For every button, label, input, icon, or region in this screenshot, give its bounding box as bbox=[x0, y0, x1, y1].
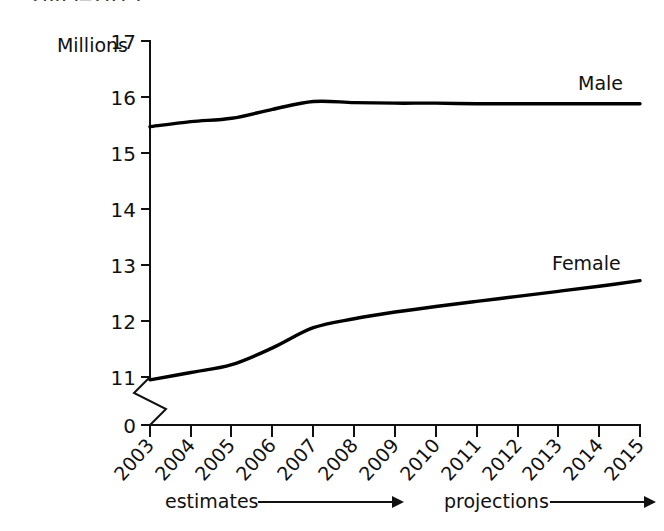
arrow-right-icon bbox=[392, 496, 404, 508]
x-tick-label-2014: 2014 bbox=[558, 434, 607, 485]
y-tick-label-13: 13 bbox=[111, 254, 136, 278]
y-tick-label-15: 15 bbox=[111, 142, 136, 166]
x-tick-label-2011: 2011 bbox=[436, 434, 485, 485]
x-tick-label-2005: 2005 bbox=[190, 434, 239, 485]
y-tick-label-12: 12 bbox=[111, 310, 136, 334]
line-chart: Millions 17 16 15 14 13 12 11 0 bbox=[0, 0, 664, 531]
y-tick-label-16: 16 bbox=[111, 86, 136, 110]
x-tick-label-2015: 2015 bbox=[599, 434, 648, 485]
series-line-female bbox=[150, 281, 640, 380]
annotation-label-projections: projections bbox=[444, 490, 549, 512]
y-tick-label-17: 17 bbox=[111, 30, 136, 54]
annotation-label-estimates: estimates bbox=[165, 490, 259, 512]
x-tick-label-2012: 2012 bbox=[477, 434, 526, 485]
x-tick-label-2006: 2006 bbox=[231, 434, 280, 485]
x-tick-label-2007: 2007 bbox=[272, 434, 321, 485]
y-tick-label-zero: 0 bbox=[123, 414, 136, 438]
arrow-right-icon bbox=[644, 496, 656, 508]
y-tick-label-11: 11 bbox=[111, 366, 136, 390]
series-line-male bbox=[150, 101, 640, 127]
x-tick-label-2008: 2008 bbox=[313, 434, 362, 485]
annotation-estimates: estimates bbox=[165, 490, 404, 512]
x-tick-label-2010: 2010 bbox=[395, 434, 444, 485]
x-tick-label-2004: 2004 bbox=[150, 434, 199, 485]
x-tick-label-2009: 2009 bbox=[354, 434, 403, 485]
y-tick-label-14: 14 bbox=[111, 198, 136, 222]
series-label-female: Female bbox=[552, 252, 621, 274]
series-label-male: Male bbox=[578, 72, 623, 94]
y-axis-break-zigzag bbox=[134, 377, 166, 425]
x-tick-label-2003: 2003 bbox=[109, 434, 158, 485]
x-tick-label-2013: 2013 bbox=[517, 434, 566, 485]
annotation-projections: projections bbox=[444, 490, 656, 512]
